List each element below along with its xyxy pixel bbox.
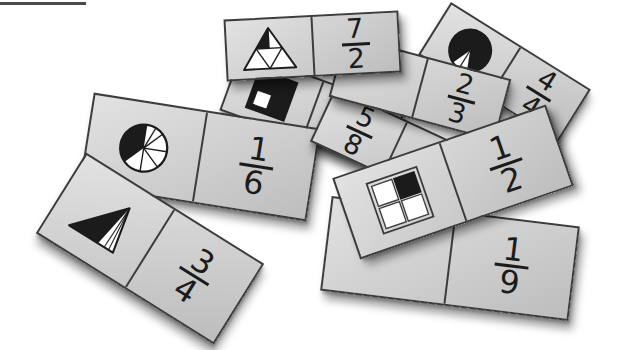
shaded-triangle-quarters-icon	[239, 23, 299, 74]
fraction-7-2: 7 2	[310, 13, 399, 75]
denominator: 2	[497, 164, 525, 195]
fraction-1-6: 1 6	[192, 112, 319, 219]
picture-half	[226, 17, 313, 79]
numerator: 1	[247, 135, 271, 164]
denominator: 2	[347, 47, 365, 70]
denominator: 3	[446, 100, 468, 126]
numerator: 7	[346, 18, 364, 41]
denominator: 8	[341, 131, 366, 158]
denominator: 6	[242, 168, 266, 197]
numerator: 2	[454, 72, 476, 98]
denominator: 9	[498, 268, 521, 297]
shaded-triangle-three-quarters-icon	[64, 181, 147, 261]
numerator: 1	[502, 235, 525, 264]
denominator: 4	[170, 274, 201, 307]
grid-one-quarter-shaded-icon	[364, 165, 435, 236]
dominoes-scatter-area: 7 2 4 4	[0, 0, 630, 350]
fraction-1-9: 1 9	[443, 213, 577, 318]
page-corner-rule	[0, 2, 86, 5]
shaded-circle-eighths-icon	[112, 116, 176, 180]
tile-7-2[interactable]: 7 2	[223, 10, 401, 81]
